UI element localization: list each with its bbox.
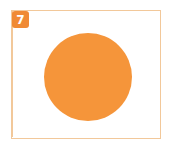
orange-circle [44, 33, 132, 121]
number-badge: 7 [12, 11, 29, 28]
